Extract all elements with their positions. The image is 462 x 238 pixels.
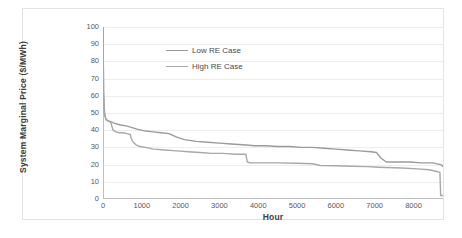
y-axis-tick-label: 80 bbox=[75, 57, 99, 65]
chart-legend: Low RE Case High RE Case bbox=[166, 42, 286, 74]
x-axis-tick-label: 7000 bbox=[355, 201, 395, 210]
x-axis-tick-label: 1000 bbox=[122, 201, 162, 210]
chart-figure: System Marginal Price ($/MWh) 0102030405… bbox=[0, 0, 462, 238]
y-axis-tick-label: 30 bbox=[75, 143, 99, 151]
y-axis-tick-label: 60 bbox=[75, 92, 99, 100]
y-axis-tick-label: 40 bbox=[75, 126, 99, 134]
y-axis-tick-label: 100 bbox=[75, 23, 99, 31]
y-axis-title-label: System Marginal Price ($/MWh) bbox=[18, 19, 28, 195]
x-axis-tick-label: 4000 bbox=[238, 201, 278, 210]
x-axis-tick-label: 5000 bbox=[277, 201, 317, 210]
y-axis-tick-label: 70 bbox=[75, 75, 99, 83]
legend-item-low-re: Low RE Case bbox=[166, 42, 286, 58]
legend-line-icon bbox=[166, 66, 188, 67]
legend-label: Low RE Case bbox=[192, 46, 241, 55]
chart-frame: System Marginal Price ($/MWh) 0102030405… bbox=[22, 8, 444, 220]
y-axis-tick-label: 20 bbox=[75, 161, 99, 169]
x-axis-tick-label: 2000 bbox=[161, 201, 201, 210]
x-axis-tick-label: 3000 bbox=[199, 201, 239, 210]
y-axis-title: System Marginal Price ($/MWh) bbox=[18, 0, 32, 19]
x-axis-tick-label: 0 bbox=[83, 201, 123, 210]
y-axis-tick-label: 50 bbox=[75, 109, 99, 117]
legend-label: High RE Case bbox=[192, 62, 243, 71]
y-axis-tick-label: 90 bbox=[75, 40, 99, 48]
legend-line-icon bbox=[166, 50, 188, 51]
legend-item-high-re: High RE Case bbox=[166, 58, 286, 74]
y-axis-tick-labels: 0102030405060708090100 bbox=[75, 27, 99, 199]
x-axis-tick-label: 6000 bbox=[316, 201, 356, 210]
y-axis-tick-label: 10 bbox=[75, 178, 99, 186]
x-axis-title: Hour bbox=[103, 212, 443, 222]
x-axis-tick-label: 8000 bbox=[394, 201, 434, 210]
